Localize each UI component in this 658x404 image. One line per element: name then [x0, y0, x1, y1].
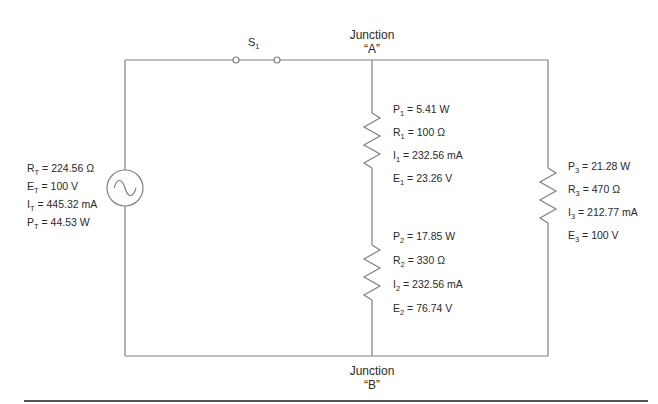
r1-voltage: E1 = 23.26 V [393, 172, 463, 195]
source-resistance: RT = 224.56 Ω [27, 162, 97, 182]
resistor-r3 [540, 168, 556, 223]
circuit-schematic [0, 0, 658, 404]
r3-resistance: R3 = 470 Ω [568, 183, 638, 206]
r3-current: I3 = 212.77 mA [568, 206, 638, 229]
ac-source-icon [107, 170, 143, 206]
resistor-r2 [364, 245, 380, 300]
junction-a-label: Junction “A” [342, 28, 402, 56]
r1-current: I1 = 232.56 mA [393, 149, 463, 172]
r2-values: P2 = 17.85 W R2 = 330 Ω I2 = 232.56 mA E… [393, 230, 463, 326]
resistor-r1 [364, 113, 380, 168]
r2-power: P2 = 17.85 W [393, 230, 463, 254]
switch-label: S1 [248, 36, 260, 48]
r3-voltage: E3 = 100 V [568, 229, 638, 252]
r2-voltage: E2 = 76.74 V [393, 302, 463, 326]
r3-power: P3 = 21.28 W [568, 160, 638, 183]
switch-contact-left [233, 57, 239, 63]
r1-values: P1 = 5.41 W R1 = 100 Ω I1 = 232.56 mA E1… [393, 103, 463, 195]
source-current: IT = 445.32 mA [27, 198, 97, 218]
source-voltage: ET = 100 V [27, 180, 97, 200]
source-values: RT = 224.56 Ω ET = 100 V IT = 445.32 mA … [27, 162, 97, 236]
source-power: PT = 44.53 W [27, 216, 97, 236]
switch-contact-right [274, 57, 280, 63]
bottom-rule [24, 400, 648, 402]
r2-current: I2 = 232.56 mA [393, 278, 463, 302]
junction-b-label: Junction “B” [342, 364, 402, 392]
r1-resistance: R1 = 100 Ω [393, 126, 463, 149]
r1-power: P1 = 5.41 W [393, 103, 463, 126]
r2-resistance: R2 = 330 Ω [393, 254, 463, 278]
r3-values: P3 = 21.28 W R3 = 470 Ω I3 = 212.77 mA E… [568, 160, 638, 252]
